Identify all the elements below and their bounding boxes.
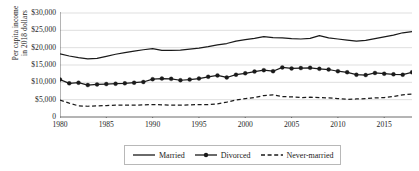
series-marker bbox=[382, 72, 386, 76]
legend-swatch-dashed bbox=[260, 150, 284, 160]
legend-label: Married bbox=[159, 151, 185, 160]
series-marker bbox=[317, 67, 321, 71]
series-marker bbox=[160, 77, 164, 81]
series-marker bbox=[299, 66, 303, 70]
y-axis-tick-label: $10,000 bbox=[31, 78, 56, 86]
y-axis-tick-label: $5,000 bbox=[35, 96, 56, 104]
series-line-never-married bbox=[60, 94, 412, 106]
series-marker bbox=[410, 70, 412, 74]
legend-swatch-solid bbox=[132, 150, 156, 160]
legend-item[interactable]: Married bbox=[132, 150, 185, 160]
y-axis-tick-label: $25,000 bbox=[31, 26, 56, 34]
series-marker bbox=[178, 78, 182, 82]
series-marker bbox=[373, 71, 377, 75]
y-axis-tick-label: $15,000 bbox=[31, 61, 56, 69]
series-marker bbox=[271, 69, 275, 73]
legend-label: Never-married bbox=[287, 151, 334, 160]
series-marker bbox=[77, 81, 81, 85]
series-marker bbox=[169, 77, 173, 81]
x-axis-tick-labels: 19801985199019952000200520102015 bbox=[60, 120, 412, 134]
x-axis-tick-label: 2000 bbox=[238, 120, 253, 129]
legend-label: Divorced bbox=[221, 151, 251, 160]
series-marker bbox=[345, 70, 349, 74]
series-marker bbox=[188, 78, 192, 82]
series-marker bbox=[60, 78, 62, 82]
series-line-married bbox=[60, 32, 412, 59]
series-marker bbox=[197, 77, 201, 81]
x-axis-tick-label: 1990 bbox=[145, 120, 160, 129]
x-axis-tick-label: 2010 bbox=[330, 120, 345, 129]
series-marker bbox=[262, 68, 266, 72]
chart-legend: MarriedDivorcedNever-married bbox=[124, 145, 341, 165]
series-marker bbox=[290, 66, 294, 70]
series-marker bbox=[243, 71, 247, 75]
series-marker bbox=[253, 70, 257, 74]
series-marker bbox=[67, 81, 71, 85]
x-axis-tick-label: 1980 bbox=[52, 120, 67, 129]
y-axis-tick-labels: $30,000$25,000$20,000$15,000$10,000$5,00… bbox=[0, 0, 56, 171]
series-marker bbox=[123, 81, 127, 85]
legend-item[interactable]: Divorced bbox=[194, 150, 251, 160]
y-axis-tick-label: $20,000 bbox=[31, 44, 56, 52]
x-axis-tick-label: 2005 bbox=[284, 120, 299, 129]
series-marker bbox=[132, 81, 136, 85]
series-marker bbox=[336, 69, 340, 73]
series-marker bbox=[206, 75, 210, 79]
series-marker bbox=[280, 65, 284, 69]
x-axis-tick-label: 1995 bbox=[191, 120, 206, 129]
series-marker bbox=[86, 83, 90, 87]
series-marker bbox=[364, 73, 368, 77]
series-marker bbox=[401, 73, 405, 77]
series-marker bbox=[354, 73, 358, 77]
series-marker bbox=[95, 82, 99, 86]
series-marker bbox=[141, 80, 145, 84]
legend-item[interactable]: Never-married bbox=[260, 150, 334, 160]
series-marker bbox=[308, 66, 312, 70]
series-marker bbox=[114, 82, 118, 86]
plot-area bbox=[60, 12, 412, 118]
legend-swatch-solid-marker bbox=[194, 150, 218, 160]
series-marker bbox=[215, 73, 219, 77]
chart-plot-svg bbox=[60, 12, 412, 118]
series-marker bbox=[234, 73, 238, 77]
series-marker bbox=[104, 82, 108, 86]
series-marker bbox=[225, 75, 229, 79]
y-axis-tick-label: $30,000 bbox=[31, 9, 56, 17]
series-marker bbox=[391, 72, 395, 76]
series-marker bbox=[151, 77, 155, 81]
x-axis-tick-label: 1985 bbox=[99, 120, 114, 129]
x-axis-tick-label: 2015 bbox=[377, 120, 392, 129]
series-marker bbox=[327, 68, 331, 72]
chart-figure: Per capita income in 2018 dollars $30,00… bbox=[0, 0, 419, 171]
